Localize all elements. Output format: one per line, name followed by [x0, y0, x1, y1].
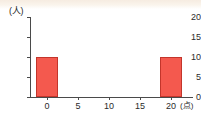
y-tick-label: 5: [179, 73, 201, 82]
x-tick-mark: [109, 97, 110, 100]
x-tick-label: 10: [94, 101, 124, 111]
x-tick-label: 15: [125, 101, 155, 111]
y-axis-unit-label: (人): [9, 4, 23, 17]
y-tick-mark: [27, 37, 30, 38]
y-tick-label: 10: [179, 53, 201, 62]
bar: [160, 57, 182, 97]
x-axis-unit-label: (点): [180, 101, 193, 111]
x-tick-mark: [140, 97, 141, 100]
bar: [36, 57, 58, 97]
y-tick-label: 20: [179, 13, 201, 22]
page-top-band: [0, 0, 201, 9]
y-tick-mark: [27, 17, 30, 18]
y-tick-mark: [27, 97, 30, 98]
y-tick-mark: [27, 77, 30, 78]
x-tick-mark: [78, 97, 79, 100]
x-tick-mark: [47, 97, 48, 100]
x-tick-label: 5: [63, 101, 93, 111]
x-tick-label: 0: [32, 101, 62, 111]
bar-chart-figure: (人) 05101520 05101520 (点): [0, 0, 201, 114]
y-tick-label: 15: [179, 33, 201, 42]
y-tick-mark: [27, 57, 30, 58]
x-tick-mark: [171, 97, 172, 100]
x-axis-line: [30, 97, 193, 98]
y-axis-line: [30, 17, 31, 98]
